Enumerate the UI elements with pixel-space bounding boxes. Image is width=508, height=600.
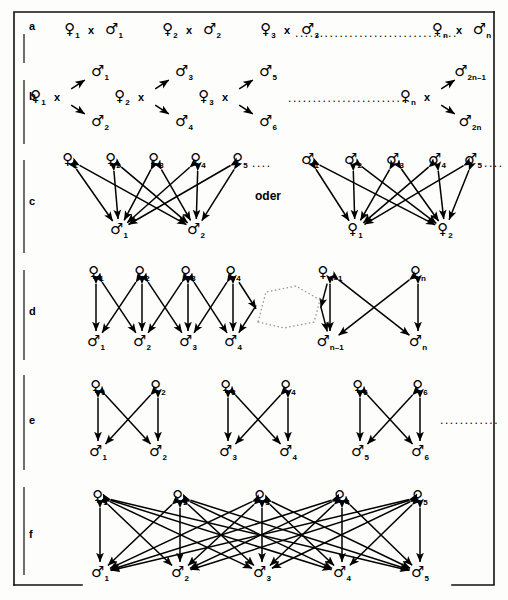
row-d-female-4: ♀4 (225, 263, 240, 283)
row-a-male-4: ♂n (473, 20, 491, 40)
row-d-male-4: ♂4 (224, 332, 242, 352)
row-b-male-bot-1: ♂2 (91, 112, 109, 132)
row-c-right-bottom-1: ♀1 (347, 220, 362, 240)
row-c-left-top-3: ♀3 (148, 150, 163, 170)
row-c-left-bottom-1: ♂1 (110, 220, 128, 240)
row-e-female-3: ♀3 (220, 377, 235, 397)
row-f-male-3: ♂3 (253, 563, 271, 583)
row-f-female-1: ♀1 (92, 487, 107, 507)
row-a-female-1: ♀1 (64, 20, 79, 40)
row-label-a: a (29, 20, 35, 32)
row-c-right-top-2: ♂2 (344, 150, 362, 170)
row-c-left-top-1: ♀1 (62, 150, 77, 170)
row-f-male-1: ♂1 (91, 563, 109, 583)
row-c-right-top-1: ♂1 (301, 150, 319, 170)
row-f-female-2: ♀2 (172, 487, 187, 507)
row-c-right-bottom-2: ♀2 (437, 220, 452, 240)
row-c-right-ellipsis: .... (484, 156, 504, 170)
row-e-female-5: ♀5 (352, 377, 367, 397)
row-d-female-2: ♀2 (134, 263, 149, 283)
row-c-left-top-2: ♀2 (105, 150, 120, 170)
row-b-male-top-3: ♂5 (259, 62, 277, 82)
row-e-male-6: ♂6 (411, 442, 429, 462)
row-b-female-1: ♀1 (30, 87, 45, 107)
row-d-female-6: ♀n (410, 263, 426, 283)
row-a-cross-3: x (284, 24, 290, 36)
row-b-male-top-2: ♂3 (175, 62, 193, 82)
row-a-female-3: ♀3 (260, 20, 275, 40)
row-e-ellipsis: ............ (440, 413, 499, 427)
row-e-female-2: ♀2 (150, 377, 165, 397)
row-label-c: c (29, 195, 35, 207)
row-e-male-5: ♂5 (351, 442, 369, 462)
row-e-female-6: ♀6 (412, 377, 427, 397)
row-b-cross-2: x (138, 91, 144, 103)
row-a-cross-1: x (88, 24, 94, 36)
row-f-male-4: ♂4 (333, 563, 351, 583)
row-f-male-2: ♂2 (171, 563, 189, 583)
row-e-male-2: ♂2 (149, 442, 167, 462)
diagram-artwork (0, 0, 508, 600)
row-e-female-4: ♀4 (280, 377, 295, 397)
row-b-female-3: ♀3 (198, 87, 213, 107)
row-c-right-top-4: ♂4 (428, 150, 446, 170)
row-c-right-top-5: ♂5 (464, 150, 482, 170)
row-d-female-1: ♀1 (88, 263, 103, 283)
continuation-hexagon (258, 286, 320, 328)
row-c-left-top-4: ♀4 (190, 150, 205, 170)
row-c-left-top-5: ♀5 (232, 150, 247, 170)
row-label-f: f (29, 528, 33, 540)
row-e-female-1: ♀1 (90, 377, 105, 397)
row-e-male-1: ♂1 (89, 442, 107, 462)
row-b-cross-4: x (424, 91, 430, 103)
row-b-ellipsis: ......................... (288, 91, 411, 105)
mating-design-figure: a b c d e f oder ♀1x♂1♀2x♂2♀3x♂3♀nx♂n...… (0, 0, 508, 600)
row-d-male-2: ♂2 (133, 332, 151, 352)
row-c-left-bottom-2: ♂2 (187, 220, 205, 240)
oder-connector: oder (255, 189, 281, 203)
row-c-right-top-3: ♂3 (386, 150, 404, 170)
row-label-e: e (29, 414, 35, 426)
row-b-cross-3: x (222, 91, 228, 103)
row-d-female-5: ♀n–1 (318, 263, 343, 283)
row-f-female-4: ♀4 (334, 487, 349, 507)
row-b-female-2: ♀2 (114, 87, 129, 107)
row-a-ellipsis: ................................. (295, 26, 458, 40)
row-d-male-5: ♂n–1 (316, 332, 343, 352)
row-a-male-1: ♂1 (105, 20, 123, 40)
row-d-male-1: ♂1 (87, 332, 105, 352)
row-label-d: d (29, 305, 36, 317)
row-b-cross-1: x (54, 91, 60, 103)
row-a-male-2: ♂2 (203, 20, 221, 40)
row-b-male-bot-3: ♂6 (259, 112, 277, 132)
row-a-female-2: ♀2 (162, 20, 177, 40)
row-f-female-5: ♀5 (412, 487, 427, 507)
row-b-male-bot-2: ♂4 (175, 112, 193, 132)
row-f-male-5: ♂5 (411, 563, 429, 583)
row-e-male-4: ♂4 (279, 442, 297, 462)
row-b-male-top-4: ♂2n–1 (454, 62, 486, 82)
row-b-male-top-1: ♂1 (91, 62, 109, 82)
row-d-male-3: ♂3 (179, 332, 197, 352)
row-d-male-6: ♂n (409, 332, 427, 352)
row-d-female-3: ♀3 (180, 263, 195, 283)
row-a-cross-2: x (186, 24, 192, 36)
row-e-male-3: ♂3 (219, 442, 237, 462)
row-b-male-bot-4: ♂2n (459, 112, 482, 132)
row-c-left-ellipsis: .... (252, 156, 272, 170)
row-f-female-3: ♀3 (254, 487, 269, 507)
